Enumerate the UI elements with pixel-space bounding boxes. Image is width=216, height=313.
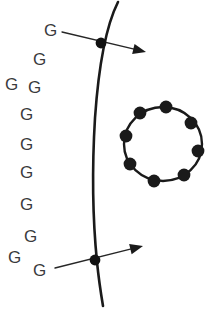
g-label: G [20, 164, 33, 181]
g-label: G [20, 196, 33, 213]
g-label: G [20, 106, 33, 123]
figure-canvas: GGGGGGGGGGG [0, 0, 216, 313]
ring-bead [148, 175, 161, 188]
g-label: G [44, 22, 57, 39]
g-label: G [8, 249, 21, 266]
g-label: G [33, 51, 46, 68]
g-label: G [33, 262, 46, 279]
ring-bead [160, 101, 173, 114]
upper-node [96, 38, 107, 49]
ring-bead [178, 169, 191, 182]
ring-bead [185, 117, 198, 130]
lower-node [90, 255, 101, 266]
g-label: G [24, 228, 37, 245]
ring-bead [120, 130, 133, 143]
lower-arrow-head [129, 244, 143, 254]
ring-bead [134, 107, 147, 120]
ring-bead [124, 158, 137, 171]
bead-ring-beads [120, 101, 205, 188]
g-label: G [5, 76, 18, 93]
ring-bead [192, 145, 205, 158]
upper-arrow-head [132, 44, 146, 54]
g-label: G [20, 136, 33, 153]
nodes-group [90, 38, 107, 266]
ring-group [120, 101, 205, 188]
g-label: G [28, 79, 41, 96]
